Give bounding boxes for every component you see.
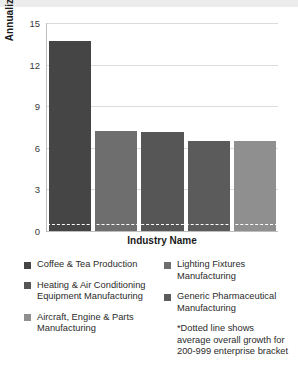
legend-label: Generic Pharmaceutical Manufacturing — [177, 291, 276, 313]
bar-chart: Annualized % change 03691215 Industry Na… — [0, 7, 298, 255]
bar — [95, 131, 137, 231]
y-axis-tick-label: 12 — [29, 59, 40, 70]
plot-area: 03691215 — [46, 23, 278, 232]
legend-label: Lighting Fixtures Manufacturing — [177, 259, 245, 281]
y-axis-title: Annualized % change — [4, 0, 15, 59]
bar-series — [47, 23, 278, 231]
bar — [141, 132, 183, 231]
legend-swatch — [164, 262, 171, 269]
legend-item: Generic Pharmaceutical Manufacturing — [164, 291, 290, 314]
legend-footnote: *Dotted line shows average overall growt… — [164, 323, 290, 358]
legend-column-right: Lighting Fixtures ManufacturingGeneric P… — [164, 259, 290, 358]
y-axis-tick-label: 0 — [35, 226, 40, 237]
bar — [49, 41, 91, 231]
reference-line — [47, 224, 278, 225]
y-axis-tick-label: 3 — [35, 184, 40, 195]
legend-label: Coffee & Tea Production — [37, 259, 137, 269]
x-axis-line — [46, 231, 278, 232]
y-axis-tick-label: 15 — [29, 18, 40, 29]
legend-swatch — [24, 282, 31, 289]
legend-swatch — [24, 314, 31, 321]
chart-legend: Coffee & Tea ProductionHeating & Air Con… — [0, 255, 298, 383]
legend-label: Aircraft, Engine & Parts Manufacturing — [37, 312, 134, 334]
legend-swatch — [164, 294, 171, 301]
legend-swatch — [24, 262, 31, 269]
legend-column-left: Coffee & Tea ProductionHeating & Air Con… — [24, 259, 164, 344]
y-axis-tick-label: 9 — [35, 101, 40, 112]
x-axis-title: Industry Name — [46, 235, 278, 246]
legend-item: Heating & Air Conditioning Equipment Man… — [24, 280, 158, 303]
y-axis-tick-label: 6 — [35, 142, 40, 153]
legend-item: Lighting Fixtures Manufacturing — [164, 259, 290, 282]
bar — [234, 141, 276, 231]
legend-label: Heating & Air Conditioning Equipment Man… — [37, 280, 146, 302]
legend-item: Coffee & Tea Production — [24, 259, 158, 271]
bar — [188, 141, 230, 231]
legend-item: Aircraft, Engine & Parts Manufacturing — [24, 312, 158, 335]
top-band — [0, 0, 298, 7]
